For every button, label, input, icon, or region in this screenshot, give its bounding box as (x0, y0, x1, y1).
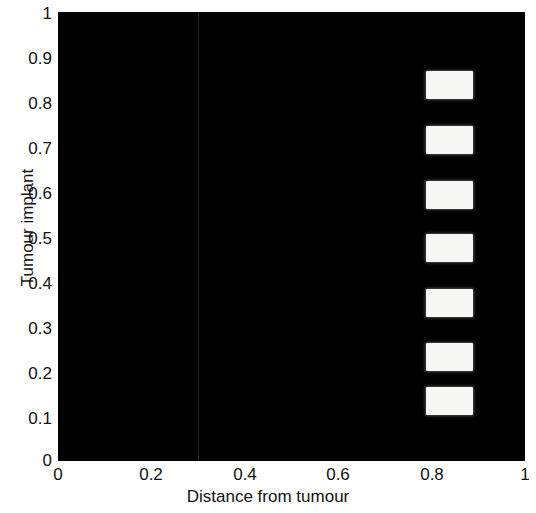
y-tick-label-0.8: 0.8 (0, 95, 52, 112)
vertical-line-marker (198, 12, 199, 461)
y-tick-label-0.9: 0.9 (0, 50, 52, 67)
x-tick-label-0.2: 0.2 (121, 466, 181, 483)
y-tick-label-0.2: 0.2 (0, 365, 52, 382)
plot-area (58, 12, 525, 461)
figure-canvas: 1 0.9 0.8 0.7 0.6 0.5 0.4 0.3 0.2 0.1 0 … (0, 0, 536, 513)
heatmap-blob (426, 234, 473, 262)
y-tick-label-1: 1 (0, 5, 52, 22)
x-axis-label: Distance from tumour (0, 487, 536, 506)
x-tick-label-0: 0 (28, 466, 88, 483)
heatmap-blob (426, 387, 473, 415)
heatmap-blob (426, 126, 473, 154)
heatmap-blob (426, 343, 473, 371)
y-tick-label-0.3: 0.3 (0, 320, 52, 337)
x-tick-label-0.6: 0.6 (308, 466, 368, 483)
heatmap-blob (426, 181, 473, 209)
y-axis-label: Tumour implant (18, 153, 37, 303)
heatmap-blob (426, 289, 473, 317)
x-tick-label-0.4: 0.4 (215, 466, 275, 483)
x-tick-label-0.8: 0.8 (402, 466, 462, 483)
x-tick-label-1: 1 (495, 466, 536, 483)
y-tick-label-0.1: 0.1 (0, 410, 52, 427)
heatmap-blob (426, 71, 473, 99)
